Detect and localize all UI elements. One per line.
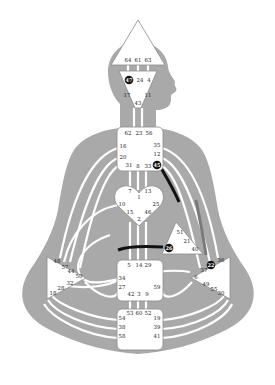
gate-label: 62	[125, 130, 132, 136]
gate-label-active: 22	[208, 262, 215, 268]
gate-label: 61	[135, 57, 142, 63]
gate-label: 20	[120, 154, 127, 160]
gate-label: 7	[128, 188, 132, 194]
gate-label: 5	[127, 262, 131, 268]
gate-label: 60	[136, 310, 143, 316]
gate-label: 48	[54, 258, 61, 264]
gate-label: 44	[68, 268, 75, 274]
gate-label: 35	[154, 142, 161, 148]
gate-label: 64	[125, 57, 132, 63]
gate-label: 18	[50, 290, 57, 296]
gate-label: 17	[124, 92, 131, 98]
gate-label: 2	[137, 216, 140, 222]
gate-label: 3	[137, 291, 141, 297]
gate-label: 27	[119, 284, 126, 290]
gate-label: 46	[145, 209, 152, 215]
gate-label: 49	[203, 281, 210, 287]
gate-label: 1	[137, 194, 140, 200]
gates-head: 64 61 63	[125, 57, 152, 63]
gate-label-active: 26	[166, 245, 173, 251]
gate-label: 50	[76, 273, 83, 279]
gate-label-active: 45	[154, 162, 161, 168]
gate-label: 33	[145, 163, 152, 169]
gate-label: 39	[154, 324, 161, 330]
gate-label: 38	[119, 324, 126, 330]
gate-label: 59	[154, 284, 161, 290]
bodygraph: 64 61 63 47 24 4 17 11 43 62 23 56 16 35…	[0, 0, 275, 385]
gate-label: 37	[201, 267, 208, 273]
gate-label: 58	[119, 333, 126, 339]
gate-label: 30	[218, 290, 225, 296]
gate-label: 9	[145, 291, 149, 297]
gate-label: 15	[127, 209, 134, 215]
gate-label: 21	[184, 238, 191, 244]
gate-label: 52	[145, 310, 152, 316]
gate-label: 23	[136, 130, 143, 136]
gate-label: 14	[136, 262, 143, 268]
gate-label: 4	[147, 77, 151, 83]
gate-label: 34	[119, 275, 126, 281]
gate-label: 29	[145, 262, 152, 268]
gate-label: 54	[119, 315, 126, 321]
gate-label: 12	[154, 151, 161, 157]
gate-label: 31	[126, 162, 133, 168]
gate-label: 6	[194, 274, 198, 280]
gate-label: 28	[58, 285, 65, 291]
gate-label: 41	[154, 333, 161, 339]
gate-label: 10	[119, 201, 126, 207]
gate-label: 32	[67, 280, 74, 286]
gate-label: 16	[120, 143, 127, 149]
gate-label: 13	[145, 188, 152, 194]
gate-label: 11	[145, 92, 152, 98]
gate-label: 63	[145, 57, 152, 63]
gate-label: 8	[136, 163, 140, 169]
gate-label: 53	[127, 310, 134, 316]
gate-label: 40	[192, 246, 199, 252]
gate-label: 42	[128, 291, 135, 297]
gate-label: 51	[177, 229, 184, 235]
gate-label: 25	[153, 201, 160, 207]
gate-label: 19	[154, 315, 161, 321]
gate-label: 24	[137, 77, 144, 83]
gate-label-active: 47	[126, 77, 133, 83]
gate-label: 43	[135, 100, 142, 106]
gate-label: 56	[146, 130, 153, 136]
gate-label: 36	[218, 257, 225, 263]
